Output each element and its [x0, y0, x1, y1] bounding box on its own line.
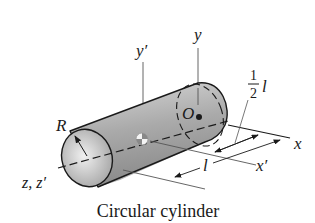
label-y-prime: y′: [134, 41, 148, 60]
figure-caption: Circular cylinder: [97, 201, 219, 221]
half-length-leader: [235, 100, 248, 143]
label-z-axes: z, z′: [21, 174, 46, 191]
circular-cylinder-diagram: y y′ O R z, z′ x x′ l 1 2 l Circular cyl…: [0, 0, 315, 223]
label-x-prime: x′: [255, 156, 268, 175]
fraction-numerator: 1: [250, 68, 257, 83]
fraction-denominator: 2: [250, 86, 257, 101]
origin-dot: [196, 114, 202, 120]
label-y: y: [192, 25, 202, 44]
fraction-l: l: [262, 77, 267, 96]
extension-line: [123, 170, 205, 189]
label-origin: O: [182, 104, 194, 123]
length-dimension: [213, 140, 280, 163]
label-length: l: [203, 156, 208, 175]
label-radius: R: [55, 116, 67, 135]
length-dimension: [175, 168, 200, 177]
label-x: x: [293, 134, 302, 153]
